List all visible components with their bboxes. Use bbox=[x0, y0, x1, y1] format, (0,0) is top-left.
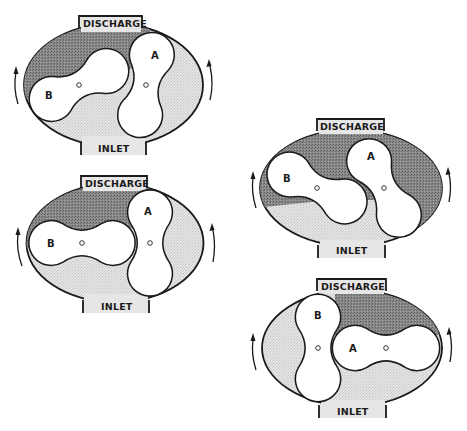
rotor-b-label: B bbox=[47, 238, 55, 249]
rotor-a-label: A bbox=[367, 151, 375, 162]
rotation-arrow-left bbox=[251, 171, 257, 208]
pump-stage-1: B A DISCHARGE INLET bbox=[14, 16, 213, 155]
rotor-b-shaft bbox=[77, 83, 82, 88]
rotor-a-label: A bbox=[349, 343, 357, 354]
discharge-label: DISCHARGE bbox=[320, 121, 384, 132]
rotor-a-shaft bbox=[382, 186, 387, 191]
inlet-label: INLET bbox=[98, 143, 130, 154]
rotor-a-label: A bbox=[144, 206, 152, 217]
rotation-arrow-right bbox=[446, 167, 451, 202]
rotation-arrow-right bbox=[207, 59, 213, 100]
pump-stage-2: B A DISCHARGE INLET bbox=[16, 176, 215, 313]
rotor-b-label: B bbox=[45, 90, 53, 101]
rotor-b-shaft bbox=[315, 186, 320, 191]
rotor-a-shaft bbox=[144, 83, 149, 88]
rotor-b-label: B bbox=[314, 310, 322, 321]
discharge-label: DISCHARGE bbox=[85, 178, 149, 189]
rotor-a-label: A bbox=[151, 50, 159, 61]
inlet-label: INLET bbox=[101, 301, 133, 312]
rotation-arrow-right bbox=[210, 223, 215, 262]
rotor-b-shaft bbox=[80, 241, 85, 246]
inlet-label: INLET bbox=[336, 245, 368, 256]
rotor-b-shaft bbox=[316, 346, 321, 351]
rotor-b-label: B bbox=[283, 173, 291, 184]
rotation-arrow-right bbox=[447, 327, 452, 362]
discharge-label: DISCHARGE bbox=[321, 281, 385, 292]
rotation-arrow-left bbox=[14, 66, 19, 104]
rotation-arrow-left bbox=[251, 333, 257, 370]
pump-stage-3: B A DISCHARGE INLET bbox=[251, 119, 451, 258]
lobe-pump-figure: B A DISCHARGE INLET B A DISCHARGE INLET bbox=[0, 0, 467, 431]
rotation-arrow-left bbox=[16, 227, 23, 266]
rotor-a-shaft bbox=[384, 346, 389, 351]
discharge-label: DISCHARGE bbox=[83, 18, 147, 29]
pump-stage-4: B A DISCHARGE INLET bbox=[251, 279, 452, 418]
inlet-label: INLET bbox=[337, 406, 369, 417]
rotor-a-shaft bbox=[148, 241, 153, 246]
